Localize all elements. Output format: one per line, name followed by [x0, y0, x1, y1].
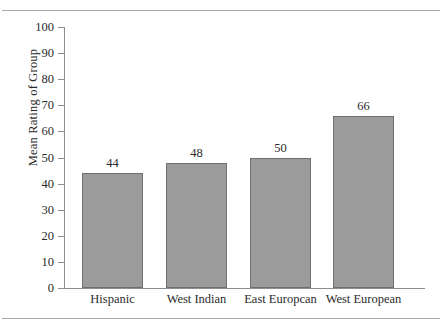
y-axis-tick-label: 10 [20, 256, 54, 269]
y-axis-tick-label: 90 [20, 47, 54, 60]
y-axis-tick-label: 100 [20, 21, 54, 34]
figure-container: Mean Rating of Group 0102030405060708090… [0, 0, 444, 328]
y-axis-tick [58, 105, 65, 106]
bar-chart: Mean Rating of Group 0102030405060708090… [0, 0, 444, 328]
y-axis-tick-label: 0 [20, 282, 54, 295]
bar [166, 163, 227, 288]
y-axis-tick [58, 236, 65, 237]
figure-bottom-rule [2, 318, 440, 319]
bar-value-label: 50 [250, 142, 311, 155]
y-axis-tick [58, 262, 65, 263]
bar-value-label: 66 [333, 100, 394, 113]
y-axis-tick-label: 40 [20, 177, 54, 190]
bar-value-label: 48 [166, 147, 227, 160]
bar [250, 158, 311, 289]
bar-value-label: 44 [82, 157, 143, 170]
x-axis-line [64, 288, 425, 289]
y-axis-tick [58, 184, 65, 185]
bar [82, 173, 143, 288]
y-axis-tick-label: 20 [20, 230, 54, 243]
y-axis-tick [58, 210, 65, 211]
y-axis-tick [58, 79, 65, 80]
y-axis-tick-label: 80 [20, 73, 54, 86]
y-axis-tick [58, 27, 65, 28]
y-axis-tick-label: 50 [20, 151, 54, 164]
y-axis-tick [58, 158, 65, 159]
bar [333, 116, 394, 288]
y-axis-tick [58, 53, 65, 54]
y-axis-tick-label: 60 [20, 125, 54, 138]
y-axis-tick [58, 288, 65, 289]
y-axis-tick-label: 70 [20, 99, 54, 112]
y-axis-tick [58, 131, 65, 132]
y-axis-tick-label: 30 [20, 203, 54, 216]
x-axis-category-label: West European [304, 293, 424, 307]
